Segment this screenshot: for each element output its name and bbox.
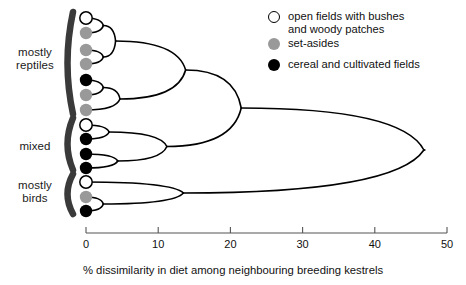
group-brackets — [68, 12, 74, 214]
group-label-mostly-reptiles: mostly reptiles — [6, 46, 64, 71]
leaf-node — [80, 133, 92, 145]
leaf-node — [80, 74, 92, 86]
legend-item-set-asides: set-asides — [268, 37, 466, 50]
group-label-mixed: mixed — [6, 140, 64, 153]
legend-label-open-fields: open fields with bushes and woody patche… — [288, 10, 404, 35]
axis-tick-label: 30 — [296, 238, 308, 250]
legend-label-cereal-fields: cereal and cultivated fields — [288, 58, 420, 71]
axis-tick-label: 40 — [369, 238, 381, 250]
axis-tick-label: 0 — [83, 238, 89, 250]
axis-tick-label: 10 — [152, 238, 164, 250]
leaf-node — [80, 27, 92, 39]
legend-item-cereal-fields: cereal and cultivated fields — [268, 58, 466, 71]
leaf-node — [80, 176, 92, 188]
gray-circle-icon — [268, 38, 280, 50]
group-label-mostly-birds: mostly birds — [6, 179, 64, 204]
axis-caption: % dissimilarity in diet among neighbouri… — [0, 264, 466, 276]
leaf-node — [80, 191, 92, 203]
leaf-node — [80, 162, 92, 174]
legend: open fields with bushes and woody patche… — [268, 10, 466, 73]
leaf-node — [80, 148, 92, 160]
leaf-node — [80, 119, 92, 131]
axis-tick-label: 50 — [441, 238, 453, 250]
legend-label-set-asides: set-asides — [288, 37, 339, 50]
black-circle-icon — [268, 59, 280, 71]
legend-item-open-fields: open fields with bushes and woody patche… — [268, 10, 466, 35]
leaf-node — [80, 89, 92, 101]
leaf-node — [80, 58, 92, 70]
dendrogram-figure: mostly reptiles mixed mostly birds open … — [0, 0, 466, 285]
open-circle-icon — [268, 11, 280, 23]
leaf-node — [80, 44, 92, 56]
leaf-node — [80, 12, 92, 24]
leaf-node — [80, 104, 92, 116]
x-axis — [86, 227, 447, 233]
leaf-node — [80, 205, 92, 217]
axis-tick-label: 20 — [224, 238, 236, 250]
leaf-markers — [80, 12, 92, 217]
